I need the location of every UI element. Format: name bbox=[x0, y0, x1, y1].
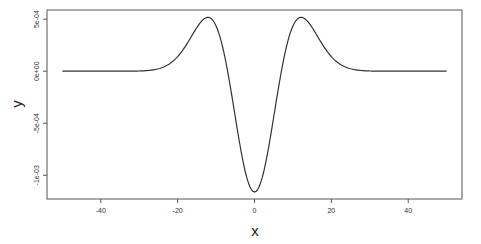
y-tick-label: -5e-04 bbox=[33, 113, 40, 133]
y-axis: 5e-040e+00-5e-04-1e-03 bbox=[33, 10, 47, 185]
x-axis-label: x bbox=[251, 222, 259, 239]
y-tick-label: 5e-04 bbox=[33, 10, 40, 28]
x-tick-label: 20 bbox=[327, 207, 335, 214]
plot-box bbox=[47, 10, 462, 199]
line-chart: -40-2002040 5e-040e+00-5e-04-1e-03 x y bbox=[0, 0, 481, 244]
y-tick-label: 0e+00 bbox=[33, 61, 40, 81]
data-line bbox=[62, 17, 446, 192]
y-axis-label: y bbox=[8, 100, 25, 108]
x-axis: -40-2002040 bbox=[96, 199, 412, 214]
x-tick-label: 40 bbox=[404, 207, 412, 214]
y-tick-label: -1e-03 bbox=[33, 165, 40, 185]
x-tick-label: -20 bbox=[173, 207, 183, 214]
x-tick-label: -40 bbox=[96, 207, 106, 214]
x-tick-label: 0 bbox=[253, 207, 257, 214]
